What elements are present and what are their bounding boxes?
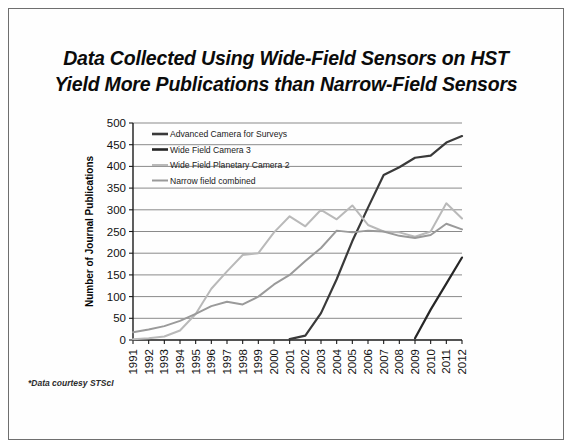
x-tick-label: 1992 bbox=[143, 349, 155, 375]
x-tick-label: 1993 bbox=[158, 349, 170, 375]
x-tick-label: 2004 bbox=[331, 348, 343, 374]
y-tick-label: 100 bbox=[107, 291, 126, 303]
x-tick-label: 1995 bbox=[190, 349, 202, 375]
chart-axes bbox=[129, 123, 462, 344]
x-tick-label: 2003 bbox=[315, 349, 327, 375]
legend-label: Narrow field combined bbox=[170, 176, 256, 186]
x-tick-label: 2010 bbox=[425, 349, 437, 375]
legend-label: Wide Field Planetary Camera 2 bbox=[170, 160, 290, 170]
x-axis-tick-labels: 1991199219931994199519961997199819992000… bbox=[127, 348, 468, 374]
y-tick-label: 50 bbox=[113, 312, 126, 324]
series-line bbox=[133, 224, 462, 333]
y-tick-label: 200 bbox=[107, 247, 126, 259]
x-tick-label: 2012 bbox=[456, 349, 468, 375]
y-tick-label: 350 bbox=[107, 182, 126, 194]
x-tick-label: 1996 bbox=[205, 349, 217, 375]
x-tick-label: 2008 bbox=[393, 349, 405, 375]
data-source-footnote: *Data courtesy STScI bbox=[28, 378, 114, 388]
slide-canvas: Data Collected Using Wide-Field Sensors … bbox=[0, 0, 572, 448]
y-tick-label: 300 bbox=[107, 204, 126, 216]
legend-label: Advanced Camera for Surveys bbox=[170, 129, 287, 139]
x-tick-label: 1999 bbox=[252, 349, 264, 375]
y-axis-title: Number of Journal Publications bbox=[84, 156, 95, 308]
y-tick-label: 500 bbox=[107, 117, 126, 129]
x-tick-label: 2001 bbox=[284, 349, 296, 375]
x-tick-label: 2005 bbox=[346, 349, 358, 375]
y-axis-tick-labels: 050100150200250300350400450500 bbox=[107, 117, 126, 346]
x-tick-label: 1994 bbox=[174, 348, 186, 374]
y-tick-label: 450 bbox=[107, 139, 126, 151]
y-tick-label: 0 bbox=[120, 334, 126, 346]
x-tick-label: 1998 bbox=[237, 349, 249, 375]
x-tick-label: 1997 bbox=[221, 349, 233, 375]
y-axis-title-text: Number of Journal Publications bbox=[84, 156, 95, 308]
x-tick-label: 2007 bbox=[378, 349, 390, 375]
y-tick-label: 150 bbox=[107, 269, 126, 281]
chart-legend: Advanced Camera for SurveysWide Field Ca… bbox=[152, 129, 290, 186]
x-tick-label: 2000 bbox=[268, 349, 280, 375]
x-tick-label: 2011 bbox=[440, 349, 452, 374]
x-tick-label: 1991 bbox=[127, 349, 139, 375]
x-tick-label: 2009 bbox=[409, 349, 421, 375]
series-line bbox=[415, 258, 462, 339]
x-tick-label: 2006 bbox=[362, 349, 374, 375]
y-tick-label: 400 bbox=[107, 160, 126, 172]
x-tick-label: 2002 bbox=[299, 349, 311, 375]
y-tick-label: 250 bbox=[107, 226, 126, 238]
legend-label: Wide Field Camera 3 bbox=[170, 145, 251, 155]
